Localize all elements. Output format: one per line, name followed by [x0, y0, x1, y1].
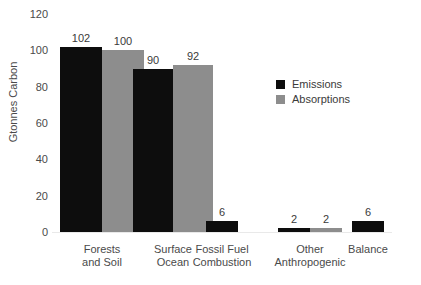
bar-value-label: 92	[173, 51, 213, 62]
bar-emissions-1	[133, 69, 173, 233]
y-tick-label: 40	[18, 154, 48, 165]
bar-value-label: 102	[61, 33, 101, 44]
bar-value-label: 100	[103, 36, 143, 47]
legend-label: Absorptions	[292, 94, 350, 105]
y-tick-label: 80	[18, 82, 48, 93]
bar-emissions-4	[352, 221, 384, 232]
bar-emissions-2	[206, 221, 238, 232]
legend-swatch-icon	[276, 80, 285, 89]
legend-swatch-icon	[276, 95, 285, 104]
legend-label: Emissions	[292, 79, 342, 90]
legend-item-emissions: Emissions	[276, 77, 350, 91]
bar-value-label: 6	[348, 207, 388, 218]
y-tick-label: 0	[18, 227, 48, 238]
bar-emissions-0	[60, 47, 102, 232]
y-tick-label: 100	[18, 45, 48, 56]
bar-value-label: 90	[133, 55, 173, 66]
x-tick-label-line: Anthropogenic	[255, 256, 365, 269]
chart-legend: EmissionsAbsorptions	[276, 77, 350, 107]
y-tick-label: 120	[18, 9, 48, 20]
bar-emissions-3	[278, 228, 310, 232]
y-tick-label: 20	[18, 191, 48, 202]
bar-chart: Gtonnes Carbon 120100806040200 Emissions…	[0, 0, 421, 285]
bar-value-label: 2	[306, 214, 346, 225]
x-axis-baseline	[52, 232, 392, 233]
bar-value-label: 6	[202, 207, 242, 218]
bar-absorptions-3	[310, 228, 342, 232]
x-tick-label-line: Balance	[313, 243, 421, 256]
y-axis-ticks: 120100806040200	[18, 0, 48, 285]
legend-item-absorptions: Absorptions	[276, 92, 350, 106]
x-tick-label: Balance	[313, 243, 421, 256]
y-tick-label: 60	[18, 118, 48, 129]
